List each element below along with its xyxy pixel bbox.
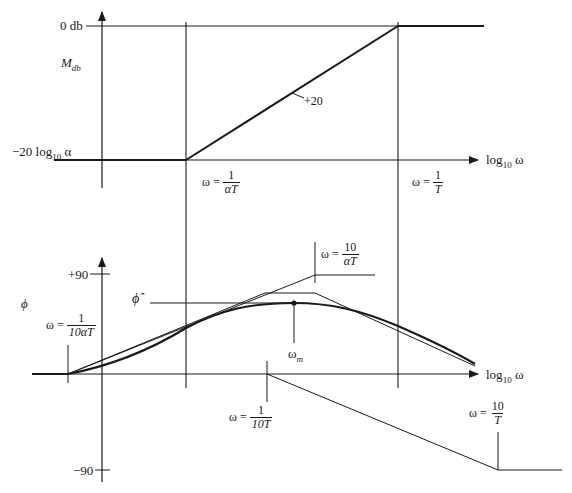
corner-1-over-alphaT-label: ω = 1αT	[202, 169, 240, 196]
magnitude-axis-label: Mdb	[61, 56, 81, 73]
phi-max-label: ϕ̂	[132, 292, 139, 306]
pole-phase-asymptote	[267, 374, 562, 470]
slope-leader	[292, 93, 304, 98]
low-level-label: −20 log10 α	[12, 145, 71, 162]
break-1-over-10T-label: ω = 110T	[229, 404, 272, 431]
break-10-over-T-label: ω = 10T	[469, 400, 506, 427]
zero-db-label: 0 db	[60, 19, 83, 32]
magnitude-axis-sub: db	[72, 63, 81, 73]
magnitude-x-axis-label: log10 ω	[486, 153, 523, 170]
magnitude-axis-main: M	[61, 55, 72, 70]
plus90-label: +90	[68, 268, 88, 281]
phase-axis-label: ϕ	[21, 297, 28, 310]
phase-x-axis-label: log10 ω	[486, 368, 523, 385]
break-10-over-alphaT-label: ω = 10αT	[321, 241, 359, 268]
phase-max-point	[291, 300, 296, 305]
minus90-label: −90	[73, 464, 93, 477]
slope-label: +20	[304, 95, 323, 107]
omega-m-label: ωm	[288, 347, 303, 364]
corner-1-over-T-label: ω = 1T	[412, 169, 443, 196]
break-1-over-10alphaT-label: ω = 110αT	[46, 312, 96, 339]
phase-curve	[32, 303, 475, 374]
